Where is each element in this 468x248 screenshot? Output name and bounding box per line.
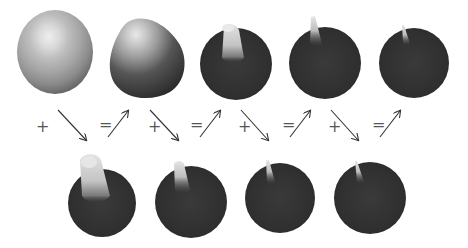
arrow-down-right-icon	[58, 110, 86, 140]
equals-sign: =	[282, 115, 295, 134]
operator-row: + = + = + = + =	[36, 110, 400, 140]
shape-2	[110, 19, 185, 99]
residual-2	[155, 161, 227, 238]
equals-sign: =	[99, 115, 112, 134]
equals-sign: =	[190, 115, 203, 134]
shape-4	[289, 16, 361, 99]
shape-1	[17, 10, 93, 94]
residual-1	[68, 154, 136, 237]
equals-sign: =	[372, 115, 385, 134]
shape-5	[379, 25, 449, 98]
residual-3	[245, 160, 315, 233]
plus-sign: +	[36, 117, 49, 136]
diagram-canvas: + = + = + = + =	[0, 0, 468, 248]
shape-3	[200, 24, 272, 100]
diagram-figure: + = + = + = + =	[0, 0, 468, 248]
residual-4	[334, 161, 406, 234]
